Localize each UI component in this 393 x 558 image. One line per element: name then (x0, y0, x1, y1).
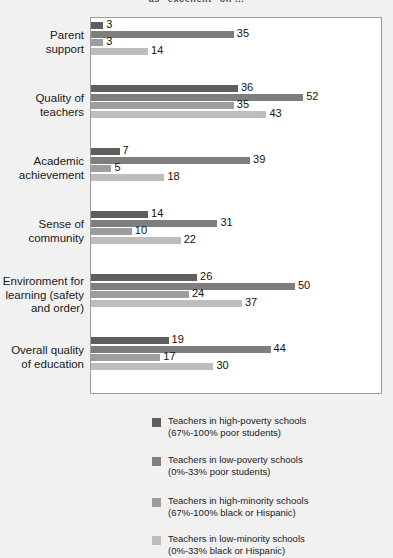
bar[interactable] (91, 363, 213, 370)
bar-value-label: 36 (241, 81, 253, 93)
bar-value-label: 44 (274, 342, 286, 354)
bar-group: Environment forlearning (safetyand order… (0, 274, 393, 318)
bar-row: 14 (91, 211, 391, 218)
bar-value-label: 10 (135, 224, 147, 236)
bar-group: Parentsupport335314 (0, 22, 393, 66)
bar[interactable] (91, 237, 181, 244)
legend-label-line1: Teachers in low-minority schools (168, 533, 305, 545)
bar-row: 19 (91, 337, 391, 344)
category-label-line: Parent (0, 29, 84, 43)
bar-value-label: 5 (114, 161, 120, 173)
bar-row: 14 (91, 48, 391, 55)
legend-label: Teachers in high-poverty schools(67%-100… (168, 415, 306, 439)
bar-row-set: 19441730 (91, 337, 391, 381)
bar-value-label: 52 (306, 90, 318, 102)
bar-row-set: 335314 (91, 22, 391, 66)
category-label-line: Academic (0, 155, 84, 169)
bar-value-label: 24 (192, 287, 204, 299)
bar[interactable] (91, 165, 111, 172)
legend-swatch-icon (152, 457, 161, 466)
bar[interactable] (91, 337, 169, 344)
bar-row: 24 (91, 291, 391, 298)
legend-swatch-icon (152, 418, 161, 427)
bar[interactable] (91, 148, 120, 155)
bar[interactable] (91, 346, 271, 353)
category-label: Overall qualityof education (0, 344, 84, 371)
category-label-line: community (0, 232, 84, 246)
chart-figure: as "excellent" on ... Parentsupport33531… (0, 0, 393, 558)
bar-group: Academicachievement739518 (0, 148, 393, 192)
legend-label-line2: (0%-33% poor students) (168, 466, 303, 478)
bar-row: 30 (91, 363, 391, 370)
legend-label-line2: (0%-33% black or Hispanic) (168, 545, 305, 557)
bar-value-label: 43 (269, 107, 281, 119)
category-label: Environment forlearning (safetyand order… (0, 275, 84, 316)
bar-value-label: 31 (220, 216, 232, 228)
category-label: Academicachievement (0, 155, 84, 182)
legend-label: Teachers in low-poverty schools(0%-33% p… (168, 454, 303, 478)
bar[interactable] (91, 291, 189, 298)
bar-row: 3 (91, 39, 391, 46)
category-label-line: Overall quality (0, 344, 84, 358)
bar-row: 18 (91, 174, 391, 181)
bar-value-label: 22 (184, 233, 196, 245)
bar-row-set: 739518 (91, 148, 391, 192)
legend-label-line1: Teachers in high-poverty schools (168, 415, 306, 427)
bar-row: 35 (91, 31, 391, 38)
bar-value-label: 50 (298, 279, 310, 291)
bar-row-set: 14311022 (91, 211, 391, 255)
bar-row: 50 (91, 283, 391, 290)
chart-title: as "excellent" on ... (0, 0, 393, 4)
bar[interactable] (91, 354, 160, 361)
bar[interactable] (91, 85, 238, 92)
bar-value-label: 7 (123, 144, 129, 156)
bar-group: Sense ofcommunity14311022 (0, 211, 393, 255)
bar-value-label: 18 (167, 170, 179, 182)
category-label-line: and order) (0, 302, 84, 316)
bar-value-label: 35 (237, 98, 249, 110)
category-label-line: Quality of (0, 92, 84, 106)
bar-row: 7 (91, 148, 391, 155)
bar[interactable] (91, 39, 103, 46)
bar-row: 44 (91, 346, 391, 353)
category-label: Quality ofteachers (0, 92, 84, 119)
bar[interactable] (91, 111, 266, 118)
bar-group: Overall qualityof education19441730 (0, 337, 393, 381)
category-label-line: of education (0, 358, 84, 372)
category-label-line: support (0, 43, 84, 57)
bar[interactable] (91, 102, 234, 109)
legend-swatch-icon (152, 536, 161, 545)
bar[interactable] (91, 48, 148, 55)
bar-row: 22 (91, 237, 391, 244)
category-label-line: achievement (0, 169, 84, 183)
bar[interactable] (91, 274, 197, 281)
bar-value-label: 35 (237, 27, 249, 39)
bar[interactable] (91, 94, 303, 101)
bar-row: 10 (91, 228, 391, 235)
bar-group: Quality ofteachers36523543 (0, 85, 393, 129)
bar[interactable] (91, 22, 103, 29)
bar-value-label: 37 (245, 296, 257, 308)
bar-value-label: 14 (151, 44, 163, 56)
bar[interactable] (91, 220, 217, 227)
bar-value-label: 26 (200, 270, 212, 282)
bar-row: 17 (91, 354, 391, 361)
legend-label-line2: (67%-100% black or Hispanic) (168, 507, 308, 519)
bar-row: 5 (91, 165, 391, 172)
bar[interactable] (91, 174, 164, 181)
bar-row: 36 (91, 85, 391, 92)
bar[interactable] (91, 300, 242, 307)
bar-row: 43 (91, 111, 391, 118)
bar[interactable] (91, 211, 148, 218)
bar-value-label: 17 (163, 350, 175, 362)
category-label-line: Sense of (0, 218, 84, 232)
bar[interactable] (91, 228, 132, 235)
category-label-line: Environment for (0, 275, 84, 289)
bar-row-set: 26502437 (91, 274, 391, 318)
bar[interactable] (91, 31, 234, 38)
bar-row: 37 (91, 300, 391, 307)
bar-value-label: 14 (151, 207, 163, 219)
legend-label: Teachers in high-minority schools(67%-10… (168, 495, 308, 519)
bar-row: 35 (91, 102, 391, 109)
legend-label: Teachers in low-minority schools(0%-33% … (168, 533, 305, 557)
